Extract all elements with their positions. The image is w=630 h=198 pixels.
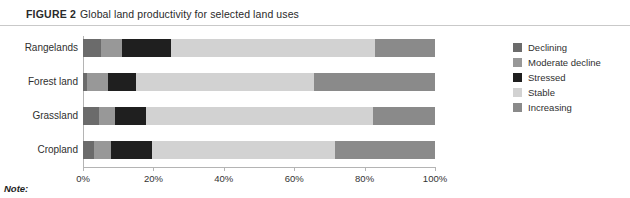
- bar-segment-moderate-decline: [87, 73, 107, 91]
- category-label: Cropland: [0, 141, 78, 159]
- chart-row-forest-land: Forest land: [0, 73, 470, 91]
- x-tick-label: 40%: [214, 173, 233, 184]
- chart-row-rangelands: Rangelands: [0, 39, 470, 57]
- category-label-wrap: Forest land: [0, 73, 78, 91]
- bar-segment-stressed: [108, 73, 136, 91]
- bar-segment-increasing: [314, 73, 435, 91]
- legend-label: Stressed: [528, 73, 566, 83]
- category-label: Grassland: [0, 107, 78, 125]
- figure-number: FIGURE 2: [26, 8, 76, 20]
- category-label-wrap: Grassland: [0, 107, 78, 125]
- bar-segment-stressed: [122, 39, 171, 57]
- bar-segment-stressed: [111, 141, 151, 159]
- title-divider: [0, 25, 630, 26]
- bar-segment-stressed: [115, 107, 147, 125]
- legend-swatch-icon: [513, 43, 522, 52]
- category-label-wrap: Cropland: [0, 141, 78, 159]
- legend-item-stable[interactable]: Stable: [513, 85, 628, 100]
- bar-segment-increasing: [375, 39, 435, 57]
- bar-segment-declining: [83, 39, 101, 57]
- legend-item-increasing[interactable]: Increasing: [513, 100, 628, 115]
- x-tick-mark: [224, 167, 225, 171]
- legend-label: Moderate decline: [528, 58, 601, 68]
- category-label-wrap: Rangelands: [0, 39, 78, 57]
- x-axis-line: [83, 167, 436, 168]
- x-tick-mark: [83, 167, 84, 171]
- bar-segment-stable: [171, 39, 375, 57]
- category-label: Rangelands: [0, 39, 78, 57]
- x-tick-label: 60%: [285, 173, 304, 184]
- chart-area: RangelandsForest landGrasslandCropland 0…: [0, 30, 470, 175]
- x-tick-label: 80%: [355, 173, 374, 184]
- legend-swatch-icon: [513, 58, 522, 67]
- bar-segment-declining: [83, 141, 94, 159]
- bar-segment-increasing: [335, 141, 435, 159]
- stacked-bar: [83, 107, 435, 125]
- x-tick-mark: [153, 167, 154, 171]
- bar-segment-stable: [152, 141, 335, 159]
- figure-title: FIGURE 2Global land productivity for sel…: [26, 8, 299, 20]
- legend-label: Declining: [528, 43, 567, 53]
- category-label: Forest land: [0, 73, 78, 91]
- bar-segment-stable: [146, 107, 373, 125]
- legend-swatch-icon: [513, 103, 522, 112]
- stacked-bar: [83, 73, 435, 91]
- legend-swatch-icon: [513, 73, 522, 82]
- figure-title-text: Global land productivity for selected la…: [80, 8, 299, 20]
- legend-label: Increasing: [528, 103, 572, 113]
- x-tick-label: 20%: [144, 173, 163, 184]
- legend-item-moderate-decline[interactable]: Moderate decline: [513, 55, 628, 70]
- chart-row-cropland: Cropland: [0, 141, 470, 159]
- bar-segment-moderate-decline: [94, 141, 112, 159]
- legend-item-declining[interactable]: Declining: [513, 40, 628, 55]
- bar-segment-increasing: [373, 107, 435, 125]
- bar-segment-stable: [136, 73, 314, 91]
- legend-swatch-icon: [513, 88, 522, 97]
- legend-item-stressed[interactable]: Stressed: [513, 70, 628, 85]
- chart-row-grassland: Grassland: [0, 107, 470, 125]
- stacked-bar: [83, 141, 435, 159]
- stacked-bar: [83, 39, 435, 57]
- x-tick-mark: [294, 167, 295, 171]
- bar-segment-moderate-decline: [101, 39, 122, 57]
- bar-segment-moderate-decline: [99, 107, 115, 125]
- x-tick-mark: [365, 167, 366, 171]
- chart-legend: DecliningModerate declineStressedStableI…: [513, 40, 628, 115]
- x-tick-label: 100%: [423, 173, 447, 184]
- bar-segment-declining: [83, 107, 99, 125]
- x-tick-mark: [435, 167, 436, 171]
- note-label: Note:: [4, 183, 28, 194]
- legend-label: Stable: [528, 88, 555, 98]
- x-tick-label: 0%: [76, 173, 90, 184]
